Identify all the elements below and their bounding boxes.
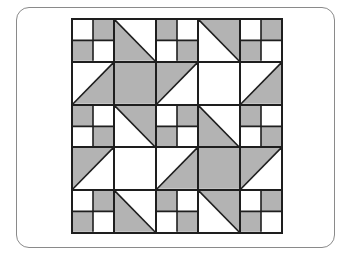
quilt-block-four-patch bbox=[240, 105, 282, 148]
quilt-block-hst bbox=[114, 190, 156, 233]
quilt-block-hst bbox=[72, 147, 114, 190]
quilt-block-solid bbox=[198, 62, 240, 105]
quilt-block-four-patch bbox=[156, 19, 198, 62]
quilt-block-hst bbox=[240, 62, 282, 105]
quilt-block-hst bbox=[72, 62, 114, 105]
quilt-block-four-patch bbox=[72, 190, 114, 233]
quilt-pattern bbox=[71, 18, 283, 234]
quilt-block-four-patch bbox=[240, 190, 282, 233]
quilt-block-solid bbox=[114, 62, 156, 105]
quilt-block-solid bbox=[114, 147, 156, 190]
quilt-block-hst bbox=[114, 105, 156, 148]
quilt-block-hst bbox=[198, 190, 240, 233]
quilt-block-hst bbox=[114, 19, 156, 62]
quilt-block-four-patch bbox=[156, 105, 198, 148]
quilt-block-hst bbox=[156, 147, 198, 190]
quilt-block-solid bbox=[198, 147, 240, 190]
quilt-block-four-patch bbox=[240, 19, 282, 62]
quilt-block-hst bbox=[198, 19, 240, 62]
quilt-block-four-patch bbox=[72, 105, 114, 148]
quilt-block-four-patch bbox=[156, 190, 198, 233]
quilt-block-hst bbox=[198, 105, 240, 148]
quilt-block-hst bbox=[156, 62, 198, 105]
quilt-block-hst bbox=[240, 147, 282, 190]
quilt-block-four-patch bbox=[72, 19, 114, 62]
